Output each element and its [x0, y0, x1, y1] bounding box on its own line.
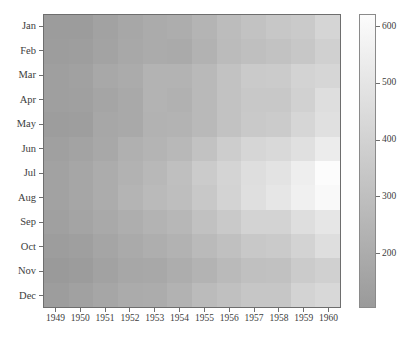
heatmap-cell	[143, 137, 168, 161]
heatmap-cell	[167, 64, 192, 88]
heatmap-cell	[93, 210, 118, 234]
y-axis-tick-label: Aug	[18, 193, 39, 204]
heatmap-cell	[167, 39, 192, 63]
x-axis-tick-label: 1955	[195, 314, 214, 324]
colorbar-tick-label: 200	[380, 249, 396, 259]
x-axis-tick-label: 1959	[294, 314, 313, 324]
heatmap-cell	[217, 137, 242, 161]
heatmap-cell	[315, 64, 340, 88]
heatmap-cell	[167, 112, 192, 136]
heatmap-cell	[143, 15, 168, 39]
heatmap-cell	[266, 88, 291, 112]
heatmap-cell	[315, 88, 340, 112]
x-axis-tick-label: 1953	[145, 314, 164, 324]
heatmap-cell	[291, 64, 316, 88]
heatmap-cell	[217, 234, 242, 258]
heatmap-cell	[143, 39, 168, 63]
heatmap-cell	[69, 185, 94, 209]
x-axis-tick-mark	[254, 308, 255, 312]
heatmap-cell	[315, 210, 340, 234]
heatmap-cell	[167, 258, 192, 282]
heatmap-cell	[69, 137, 94, 161]
heatmap-cell	[44, 283, 69, 307]
heatmap-cell	[192, 283, 217, 307]
heatmap-cell	[315, 161, 340, 185]
heatmap-cell	[291, 210, 316, 234]
x-axis-tick-label: 1954	[170, 314, 189, 324]
heatmap-cell	[241, 258, 266, 282]
x-axis-tick-label: 1952	[120, 314, 139, 324]
heatmap-cell	[315, 258, 340, 282]
heatmap-cell	[118, 210, 143, 234]
heatmap-cell	[44, 64, 69, 88]
heatmap-cell	[93, 137, 118, 161]
colorbar-tick-label: 300	[380, 192, 396, 202]
heatmap-cell	[143, 64, 168, 88]
heatmap-cell	[143, 283, 168, 307]
heatmap-plot-area	[43, 14, 341, 308]
heatmap-cell	[118, 88, 143, 112]
heatmap-cell	[167, 283, 192, 307]
heatmap-cell	[93, 161, 118, 185]
heatmap-cell	[241, 64, 266, 88]
heatmap-cell	[291, 88, 316, 112]
heatmap-cell	[217, 258, 242, 282]
heatmap-cell	[93, 258, 118, 282]
heatmap-cell	[315, 283, 340, 307]
colorbar-tick-list: 600500400300200	[376, 14, 411, 308]
heatmap-cell	[93, 234, 118, 258]
heatmap-cell	[118, 15, 143, 39]
heatmap-cell	[266, 161, 291, 185]
heatmap-cell	[217, 15, 242, 39]
heatmap-cell	[217, 283, 242, 307]
x-axis-tick-mark	[229, 308, 230, 312]
y-axis-tick-label: Mar	[19, 70, 40, 81]
heatmap-cell	[44, 88, 69, 112]
heatmap-cell	[315, 185, 340, 209]
heatmap-cell	[266, 258, 291, 282]
heatmap-cell	[44, 234, 69, 258]
heatmap-cell	[241, 15, 266, 39]
heatmap-cell	[241, 112, 266, 136]
heatmap-cell	[69, 210, 94, 234]
heatmap-cell	[217, 39, 242, 63]
heatmap-cell	[241, 185, 266, 209]
y-axis-tick-label: May	[17, 119, 39, 130]
heatmap-cell	[44, 39, 69, 63]
colorbar-tick-label: 600	[380, 22, 396, 32]
heatmap-cell	[118, 64, 143, 88]
heatmap-cell	[44, 137, 69, 161]
heatmap-cell	[44, 258, 69, 282]
heatmap-cell	[217, 210, 242, 234]
x-axis-tick-mark	[55, 308, 56, 312]
heatmap-cell	[217, 185, 242, 209]
heatmap-cell	[291, 39, 316, 63]
heatmap-cell	[93, 88, 118, 112]
heatmap-cell	[143, 234, 168, 258]
heatmap-cell	[69, 258, 94, 282]
heatmap-cell	[192, 39, 217, 63]
heatmap-cell	[143, 161, 168, 185]
heatmap-cell	[192, 112, 217, 136]
heatmap-cell	[192, 161, 217, 185]
heatmap-cell	[217, 88, 242, 112]
y-axis: JanFebMarAprMayJunJulAugSepOctNovDec	[0, 14, 43, 308]
heatmap-cell	[69, 234, 94, 258]
heatmap-cell	[266, 39, 291, 63]
heatmap-cell	[118, 112, 143, 136]
heatmap-cell	[241, 210, 266, 234]
heatmap-cell	[241, 283, 266, 307]
y-axis-tick-label: Jan	[22, 21, 39, 32]
x-axis-tick-mark	[328, 308, 329, 312]
y-axis-tick-label: Nov	[18, 266, 39, 277]
heatmap-cell	[167, 137, 192, 161]
heatmap-cell	[217, 64, 242, 88]
x-axis-tick-label: 1958	[269, 314, 288, 324]
colorbar-tick-label: 500	[380, 78, 396, 88]
x-axis-tick-label: 1949	[46, 314, 65, 324]
heatmap-cell	[69, 39, 94, 63]
x-axis-tick-label: 1950	[71, 314, 90, 324]
heatmap-cell	[118, 234, 143, 258]
heatmap-cell	[167, 185, 192, 209]
heatmap-cell	[241, 161, 266, 185]
